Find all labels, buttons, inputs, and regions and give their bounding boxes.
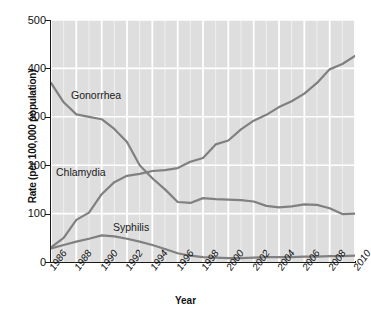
y-axis-tick-label: 500 <box>20 15 46 26</box>
y-axis-tick-label: 0 <box>20 257 46 268</box>
y-axis-tick-labels: 0100200300400500 <box>18 0 46 313</box>
series-label-syphilis: Syphilis <box>113 221 149 233</box>
series-label-gonorrhea: Gonorrhea <box>71 89 121 101</box>
y-axis-tick-label: 300 <box>20 111 46 122</box>
y-axis-tick-mark <box>45 214 51 215</box>
plot-svg <box>51 20 355 262</box>
vertical-gridlines <box>51 20 355 262</box>
y-axis-tick-mark <box>45 68 51 69</box>
y-axis-tick-label: 400 <box>20 63 46 74</box>
y-axis-tick-mark <box>45 20 51 21</box>
y-axis-tick-mark <box>45 165 51 166</box>
y-axis-tick-mark <box>45 262 51 263</box>
sti-rate-line-chart: Rate (per 100,000 population) 0100200300… <box>0 0 371 313</box>
series-label-chlamydia: Chlamydia <box>56 166 106 178</box>
x-axis-title: Year <box>0 295 371 306</box>
y-axis-tick-label: 200 <box>20 160 46 171</box>
y-axis-tick-label: 100 <box>20 208 46 219</box>
plot-area <box>51 20 355 262</box>
y-axis-tick-mark <box>45 117 51 118</box>
